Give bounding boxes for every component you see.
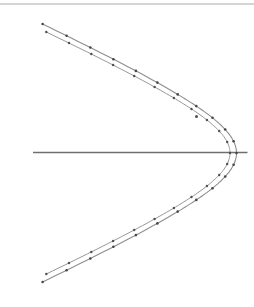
- trajectory-figure: [0, 0, 254, 307]
- outer-trajectory-marker-dot: [195, 105, 198, 108]
- inner-trajectory-marker-dot: [190, 108, 192, 110]
- outer-trajectory-marker-dot: [112, 58, 115, 61]
- outer-trajectory-marker-dot: [89, 46, 92, 49]
- inner-trajectory-marker-dot: [133, 229, 135, 231]
- outer-trajectory-marker-dot: [224, 175, 227, 178]
- inner-trajectory-marker-dot: [218, 130, 220, 132]
- outer-trajectory-marker-dot: [135, 70, 138, 73]
- inner-trajectory-marker-dot: [112, 240, 114, 242]
- inner-trajectory-marker-dot: [45, 273, 47, 275]
- inner-trajectory-marker-dot: [173, 207, 175, 209]
- outer-trajectory-marker-dot: [195, 199, 198, 202]
- inner-trajectory-marker-dot: [133, 75, 135, 77]
- outer-trajectory-marker-dot: [135, 234, 138, 237]
- outer-trajectory-marker-dot: [65, 34, 68, 37]
- outer-trajectory-marker-dot: [232, 140, 235, 143]
- outer-trajectory-marker-dot: [211, 117, 214, 120]
- inner-trajectory-marker-dot: [226, 163, 228, 165]
- outer-trajectory-marker-dot: [211, 187, 214, 190]
- inner-trajectory-marker-dot: [229, 152, 231, 154]
- inner-trajectory-marker-dot: [68, 42, 70, 44]
- inner-trajectory-marker-dot: [206, 185, 208, 187]
- inner-trajectory-marker-dot: [218, 174, 220, 176]
- inner-trajectory-marker-dot: [68, 262, 70, 264]
- inner-trajectory-marker-dot: [153, 86, 155, 88]
- outer-trajectory-marker-dot: [235, 152, 238, 155]
- inner-trajectory-marker-dot: [45, 31, 47, 33]
- inner-trajectory-marker-dot: [90, 53, 92, 55]
- outer-trajectory-marker-dot: [41, 281, 44, 284]
- outer-trajectory-marker-dot: [41, 23, 44, 26]
- outer-trajectory-marker-dot: [156, 222, 159, 225]
- inner-trajectory-marker-dot: [190, 196, 192, 198]
- outer-trajectory-marker-dot: [224, 128, 227, 131]
- outer-trajectory-marker-dot: [176, 210, 179, 213]
- inner-trajectory-marker-dot: [226, 141, 228, 143]
- inner-trajectory-marker-dot: [90, 251, 92, 253]
- inner-trajectory-marker-dot: [206, 119, 208, 121]
- outer-trajectory-marker-dot: [156, 81, 159, 84]
- inner-trajectory-marker-dot: [112, 64, 114, 66]
- outer-trajectory-marker-dot: [112, 246, 115, 249]
- outer-trajectory-marker-dot: [65, 269, 68, 272]
- figure-canvas: [0, 0, 254, 307]
- outer-trajectory-marker-dot: [176, 93, 179, 96]
- inner-trajectory-marker-dot: [173, 97, 175, 99]
- outer-trajectory-marker-dot: [89, 257, 92, 260]
- inner-trajectory-marker-dot: [153, 218, 155, 220]
- stray-data-point: [195, 115, 198, 118]
- outer-trajectory-marker-dot: [232, 163, 235, 166]
